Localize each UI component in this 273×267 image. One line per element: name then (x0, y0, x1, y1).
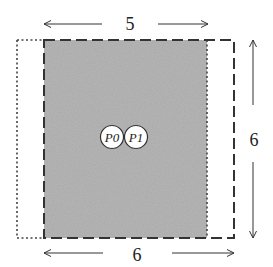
node-p1-label: P1 (128, 130, 143, 145)
node-p0-label: P0 (104, 130, 120, 145)
top-dimension-label: 5 (126, 14, 135, 34)
node-p0: P0 (101, 126, 124, 149)
diagram-canvas: 5 6 6 P0 P1 (0, 0, 273, 267)
right-dimension-label: 6 (250, 130, 259, 150)
bottom-dimension-label: 6 (133, 245, 142, 265)
node-p1: P1 (125, 126, 148, 149)
